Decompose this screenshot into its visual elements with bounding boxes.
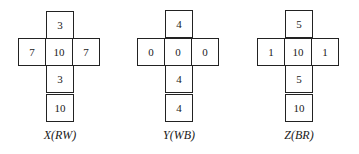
face-center: 10 <box>284 38 312 66</box>
net-label: X(RW) <box>18 128 102 143</box>
face-left: 0 <box>137 38 165 66</box>
face-top: 3 <box>46 11 74 39</box>
face-left: 7 <box>18 38 46 66</box>
face-below: 4 <box>165 65 193 93</box>
net-label: Z(BR) <box>257 128 341 143</box>
face-center: 0 <box>164 38 192 66</box>
net-label: Y(WB) <box>137 128 221 143</box>
cube-net-x: 3 7 10 7 3 10 X(RW) <box>18 0 102 154</box>
face-right: 7 <box>72 38 100 66</box>
cube-net-z: 5 1 10 1 5 10 Z(BR) <box>257 0 341 154</box>
face-below: 5 <box>285 65 313 93</box>
face-center: 10 <box>45 38 73 66</box>
face-right: 1 <box>311 38 339 66</box>
face-top: 5 <box>285 10 313 38</box>
face-below: 3 <box>46 65 74 93</box>
cube-net-y: 4 0 0 0 4 4 Y(WB) <box>137 0 221 154</box>
face-right: 0 <box>191 38 219 66</box>
face-bottom: 10 <box>285 94 313 122</box>
face-bottom: 10 <box>46 94 74 122</box>
face-left: 1 <box>257 38 285 66</box>
face-bottom: 4 <box>165 94 193 122</box>
face-top: 4 <box>165 10 193 38</box>
